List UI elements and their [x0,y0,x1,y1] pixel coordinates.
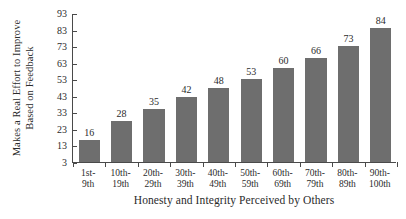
y-axis-tick-mark [73,97,77,98]
y-axis-tick-label: 13 [57,141,67,151]
bar-value-label: 16 [84,128,94,138]
y-axis-tick-mark [73,64,77,65]
x-axis-tick-label: 10th-19th [111,168,131,190]
bar-value-label: 28 [117,109,127,119]
y-axis-tick-mark [73,47,77,48]
y-axis-tick-mark [73,31,77,32]
y-axis-tick-label: 83 [57,26,67,36]
bar [273,68,294,162]
bar-value-label: 53 [246,67,256,77]
bar [208,88,229,163]
y-axis-tick-mark [73,14,77,15]
y-axis-tick-mark [73,130,77,131]
y-axis-tick-label: 63 [57,59,67,69]
bar [370,28,391,162]
y-axis-tick-label: 33 [57,108,67,118]
x-axis-tick-label: 70th-79th [305,168,325,190]
x-axis-tick-mark [73,162,74,167]
bar-value-label: 48 [214,76,224,86]
x-axis-tick-mark [332,162,333,167]
y-axis-tick-mark [73,146,77,147]
x-axis-tick-labels: 1st-9th10th-19th20th-29th30th-39th40th-4… [72,168,396,192]
y-axis-tick-label: 23 [57,125,67,135]
y-axis-tick-label: 43 [57,92,67,102]
bar-value-label: 60 [279,56,289,66]
x-axis-tick-mark [365,162,366,167]
y-axis-tick-label: 53 [57,75,67,85]
bar [111,121,132,162]
bar-chart: Makes a Real Effort to Improve Based on … [0,0,406,219]
y-axis-title-line-2: Based on Feedback [23,19,36,156]
x-axis-title: Honesty and Integrity Perceived by Other… [72,193,396,207]
x-axis-tick-mark [300,162,301,167]
x-axis-tick-mark [170,162,171,167]
y-axis-tick-label: 93 [57,9,67,19]
x-axis-tick-label: 1st-9th [81,168,95,190]
x-axis-tick-label: 90th-100th [369,168,391,190]
x-axis-tick-label: 20th-29th [143,168,163,190]
plot-area: 16283542485360667384 [72,14,396,163]
bar [241,79,262,162]
x-axis-tick-label: 30th-39th [175,168,195,190]
y-axis-tick-label: 73 [57,42,67,52]
bar [176,97,197,162]
y-axis-tick-mark [73,80,77,81]
y-axis-title-line-1: Makes a Real Effort to Improve [10,19,23,156]
x-axis-tick-mark [203,162,204,167]
x-axis-tick-mark [235,162,236,167]
bar [79,140,100,162]
y-axis-tick-labels: 3132333435363738393 [44,14,67,164]
x-axis-tick-label: 80th-89th [337,168,357,190]
bar-value-label: 35 [149,97,159,107]
bar-value-label: 84 [376,16,386,26]
bar-value-label: 66 [311,46,321,56]
bar [305,58,326,162]
bar-value-label: 73 [343,34,353,44]
x-axis-tick-label: 40th-49th [208,168,228,190]
x-axis-tick-mark [138,162,139,167]
x-axis-tick-mark [105,162,106,167]
x-axis-tick-label: 60th-69th [273,168,293,190]
x-axis-tick-mark [267,162,268,167]
y-axis-tick-mark [73,113,77,114]
y-axis-tick-label: 3 [62,158,67,168]
bar [338,46,359,162]
x-axis-tick-mark [397,162,398,167]
bar [143,109,164,162]
y-axis-title: Makes a Real Effort to Improve Based on … [0,0,46,175]
x-axis-tick-label: 50th-59th [240,168,260,190]
bar-value-label: 42 [181,85,191,95]
